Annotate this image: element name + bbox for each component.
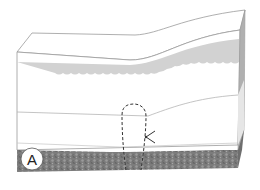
label-text: A xyxy=(27,151,37,168)
label-badge: A xyxy=(21,148,43,170)
diagram-canvas: A xyxy=(0,0,260,190)
dark-textured-base xyxy=(17,150,238,172)
